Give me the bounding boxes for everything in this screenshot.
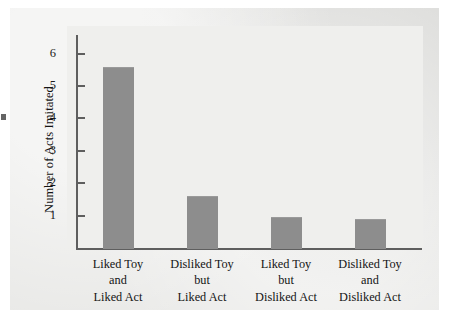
y-axis-tick-mark xyxy=(78,117,85,119)
y-axis-tick-mark xyxy=(78,182,85,184)
y-axis-tick-mark xyxy=(78,215,85,217)
y-axis-tick-mark xyxy=(78,53,85,55)
bar xyxy=(355,219,386,249)
x-axis-category-label-line: and xyxy=(318,272,422,288)
y-axis-tick-mark xyxy=(78,85,85,87)
bar xyxy=(187,196,218,249)
x-axis-category-label-line: Disliked Act xyxy=(318,289,422,305)
x-axis-category-label-line: Disliked Toy xyxy=(318,256,422,272)
figure-panel: 123456 Number of Acts Imitated Liked Toy… xyxy=(10,8,439,310)
y-axis-line xyxy=(76,35,78,249)
x-axis-category-label: Disliked ToyandDisliked Act xyxy=(318,256,422,305)
y-axis-tick-label: 6 xyxy=(40,47,56,60)
bar xyxy=(271,217,302,249)
bar xyxy=(103,67,134,249)
scan-artifact-speck xyxy=(1,114,6,120)
y-axis-title: Number of Acts Imitated xyxy=(42,60,57,240)
y-axis-tick-mark xyxy=(78,150,85,152)
